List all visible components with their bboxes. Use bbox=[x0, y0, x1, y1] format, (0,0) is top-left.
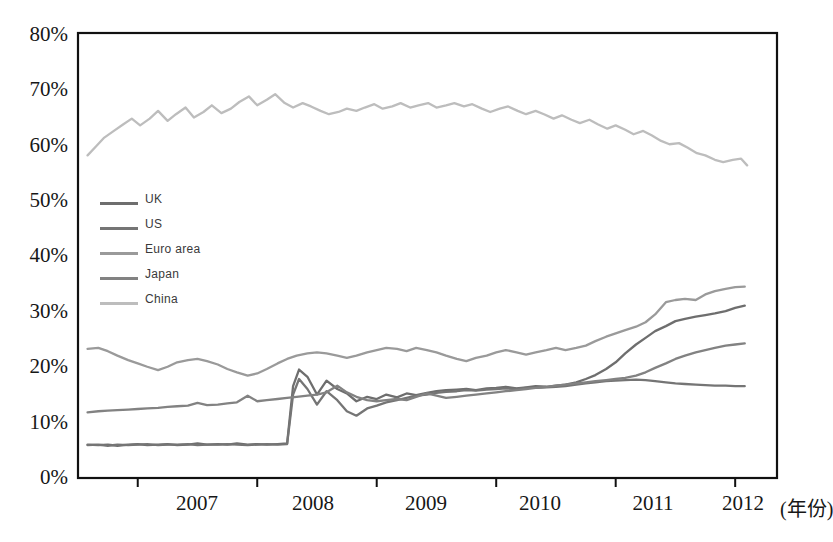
x-tick-label: 2011 bbox=[603, 491, 703, 516]
legend-swatch-japan bbox=[100, 277, 138, 280]
y-tick-label: 70% bbox=[4, 77, 68, 102]
legend-swatch-us bbox=[100, 227, 138, 230]
chart-legend: UK US Euro area Japan China bbox=[100, 192, 235, 317]
y-tick-label: 80% bbox=[4, 22, 68, 47]
legend-item-japan: Japan bbox=[100, 267, 235, 292]
y-tick-label: 60% bbox=[4, 133, 68, 158]
legend-label-china: China bbox=[145, 292, 178, 306]
legend-label-euro-area: Euro area bbox=[145, 242, 200, 256]
x-axis-unit-label: (年份) bbox=[780, 493, 833, 522]
y-tick-label: 20% bbox=[4, 354, 68, 379]
legend-swatch-euro-area bbox=[100, 252, 138, 255]
legend-item-us: US bbox=[100, 217, 235, 242]
legend-item-uk: UK bbox=[100, 192, 235, 217]
legend-item-china: China bbox=[100, 292, 235, 317]
chart-figure: 80% 70% 60% 50% 40% 30% 20% 10% 0% 2007 … bbox=[0, 0, 833, 542]
legend-label-uk: UK bbox=[145, 192, 162, 206]
y-tick-label: 30% bbox=[4, 299, 68, 324]
y-tick-label: 50% bbox=[4, 188, 68, 213]
x-tick-label: 2008 bbox=[263, 491, 363, 516]
legend-swatch-uk bbox=[100, 202, 138, 205]
legend-label-us: US bbox=[145, 217, 162, 231]
legend-item-euro-area: Euro area bbox=[100, 242, 235, 267]
legend-swatch-china bbox=[100, 302, 138, 305]
x-tick-label: 2012 bbox=[693, 491, 793, 516]
y-tick-label: 0% bbox=[4, 465, 68, 490]
x-tick-label: 2010 bbox=[490, 491, 590, 516]
x-tick-label: 2007 bbox=[147, 491, 247, 516]
y-tick-label: 40% bbox=[4, 243, 68, 268]
x-axis-ticks bbox=[138, 478, 735, 487]
legend-label-japan: Japan bbox=[145, 267, 179, 281]
y-tick-label: 10% bbox=[4, 410, 68, 435]
x-tick-label: 2009 bbox=[376, 491, 476, 516]
